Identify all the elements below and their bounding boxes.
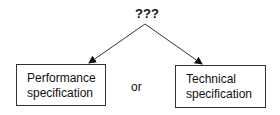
performance-specification-node: Performance specification	[16, 64, 106, 106]
arrow-to-performance	[89, 24, 145, 63]
arrow-to-technical	[145, 24, 202, 64]
node-label-line2: specification	[27, 86, 105, 101]
technical-specification-node: Technical specification	[175, 65, 266, 108]
node-label-line1: Technical	[186, 72, 265, 87]
node-label-line2: specification	[186, 87, 265, 102]
node-label-line1: Performance	[27, 71, 105, 86]
or-connector-label: or	[131, 80, 142, 94]
root-question-label: ???	[125, 6, 169, 21]
